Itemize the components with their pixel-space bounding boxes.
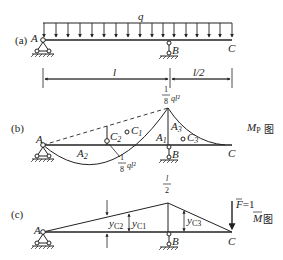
mid-moment-label: 1 8 ql²	[118, 153, 136, 174]
point-a-label: A	[30, 32, 38, 44]
ordinate-yc3-label: yC3	[186, 214, 201, 228]
area-a1-label: A1	[155, 131, 167, 145]
peak-moment-label: 1 8 ql²	[162, 85, 180, 106]
moment-curve-ab	[43, 108, 168, 165]
panel-c-label: (c)	[11, 208, 24, 221]
point-c-label: C	[228, 42, 236, 54]
svg-text:l: l	[166, 174, 169, 183]
centroid-c3-marker	[181, 137, 185, 141]
ordinate-yc2-label: yC2	[108, 217, 123, 231]
panel-a-label: (a)	[15, 34, 28, 47]
centroid-c2-label: C2	[110, 130, 121, 144]
area-a2-label: A2	[76, 147, 88, 161]
point-b-label: B	[172, 235, 179, 247]
m-diagram-suffix: 图	[263, 214, 273, 225]
point-c-label: C	[228, 147, 236, 159]
centroid-c2-marker	[105, 139, 110, 144]
dimension-ab-label: l	[113, 66, 116, 78]
point-b-label: B	[172, 148, 179, 160]
point-a-label: A	[35, 133, 43, 145]
unit-force-label: F=1	[235, 198, 254, 210]
svg-text:1: 1	[164, 85, 168, 94]
svg-text:ql²: ql²	[171, 94, 180, 103]
load-label-q: q	[138, 10, 144, 22]
m-diagram-title: M	[252, 212, 263, 224]
point-b-label: B	[172, 44, 179, 56]
panel-a: (a) q	[15, 10, 236, 88]
point-c-label: C	[228, 235, 236, 247]
dimension-bc-label: l/2	[193, 66, 205, 78]
panel-b-label: (b)	[11, 122, 24, 135]
panel-c: (c) l 2 yC2 yC1 yC3 F	[11, 174, 273, 250]
area-a3-label: A3	[170, 120, 182, 134]
svg-text:8: 8	[120, 165, 124, 174]
centroid-c1-marker	[125, 130, 129, 134]
svg-text:8: 8	[164, 97, 168, 106]
svg-text:2: 2	[165, 186, 169, 195]
leader-line	[109, 144, 120, 157]
svg-text:ql²: ql²	[127, 161, 136, 170]
point-a-label: A	[33, 224, 41, 236]
centroid-c1-label: C1	[131, 124, 142, 138]
mp-diagram-suffix: 图	[264, 124, 274, 135]
centroid-c3-label: C3	[187, 131, 198, 145]
panel-b: (b) 1 8 ql² C2 1 8 ql² C1	[11, 85, 274, 174]
structural-diagram: (a) q	[0, 0, 283, 260]
svg-text:1: 1	[120, 153, 124, 162]
peak-value-label: l 2	[163, 174, 171, 195]
mp-diagram-title: MP	[246, 121, 261, 135]
distributed-load: q	[43, 10, 232, 37]
ordinate-yc1-label: yC1	[131, 217, 146, 231]
